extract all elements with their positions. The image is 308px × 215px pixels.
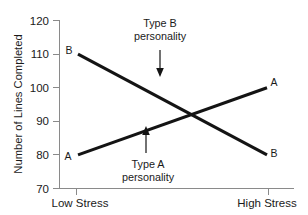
axes-group — [53, 21, 294, 196]
annotation-type-b: Type B personality — [134, 17, 187, 77]
series-end-label-type-a: A — [270, 76, 277, 88]
annotation-type-a-line2: personality — [122, 171, 175, 183]
arrow-down-icon — [156, 68, 164, 77]
line-chart: 120 110 100 90 80 70 Low Stress High Str… — [0, 0, 308, 215]
y-tick-label-120: 120 — [30, 15, 49, 27]
series-line-type-a — [78, 88, 267, 155]
y-tick-label-80: 80 — [36, 149, 49, 161]
y-tick-label-70: 70 — [36, 183, 49, 195]
series-start-label-type-a: A — [64, 150, 71, 162]
y-tick-label-100: 100 — [30, 82, 49, 94]
series-end-label-type-b: B — [270, 147, 277, 159]
annotation-type-b-line1: Type B — [143, 17, 177, 29]
series-line-type-b — [78, 54, 267, 155]
annotation-type-a-line1: Type A — [131, 158, 165, 170]
series-type-a: A A — [64, 76, 277, 162]
y-tick-labels: 120 110 100 90 80 70 — [30, 15, 49, 195]
y-tick-label-90: 90 — [36, 115, 49, 127]
annotation-type-b-line2: personality — [134, 30, 187, 42]
y-axis-title: Number of Lines Completed — [12, 34, 24, 173]
x-tick-label-low-stress: Low Stress — [52, 197, 109, 209]
x-tick-label-high-stress: High Stress — [237, 197, 297, 209]
series-start-label-type-b: B — [65, 44, 72, 56]
chart-canvas: 120 110 100 90 80 70 Low Stress High Str… — [0, 0, 308, 215]
y-tick-label-110: 110 — [31, 48, 49, 60]
x-tick-labels: Low Stress High Stress — [52, 197, 297, 209]
series-type-b: B B — [65, 44, 277, 159]
annotation-type-a: Type A personality — [122, 126, 175, 183]
